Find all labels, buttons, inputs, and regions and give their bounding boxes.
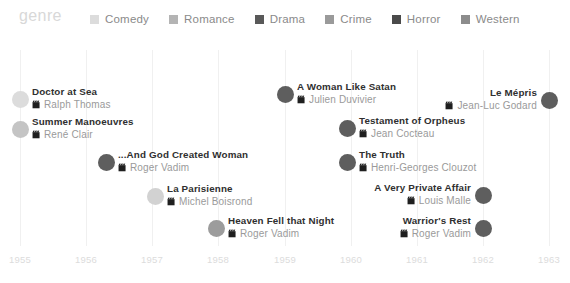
- film-title: A Woman Like Satan: [297, 82, 396, 93]
- data-point-label: La ParisienneMichel Boisrond: [167, 184, 252, 207]
- film-director-name: Roger Vadim: [240, 228, 299, 239]
- gridline-1958: [218, 50, 219, 246]
- data-point-dot[interactable]: [12, 121, 29, 138]
- data-point-label: Summer ManoeuvresRené Clair: [32, 117, 134, 140]
- film-title: Testament of Orpheus: [359, 116, 465, 127]
- x-axis-tick-label: 1962: [472, 254, 494, 265]
- x-axis-tick-label: 1963: [538, 254, 560, 265]
- data-point-dot[interactable]: [98, 154, 115, 171]
- square-swatch: [461, 15, 470, 24]
- clapperboard-icon: [407, 196, 416, 205]
- legend-item-comedy[interactable]: Comedy: [90, 13, 149, 25]
- film-director-name: Julien Duvivier: [309, 94, 376, 105]
- square-swatch: [255, 15, 264, 24]
- film-title: Summer Manoeuvres: [32, 117, 134, 128]
- x-axis-tick-label: 1957: [141, 254, 163, 265]
- data-point-dot[interactable]: [277, 86, 294, 103]
- legend-item-crime[interactable]: Crime: [325, 13, 372, 25]
- x-axis-tick-label: 1956: [75, 254, 97, 265]
- legend-item-western[interactable]: Western: [461, 13, 520, 25]
- data-point-dot[interactable]: [541, 92, 558, 109]
- film-director-name: René Clair: [44, 129, 93, 140]
- x-axis-tick-label: 1955: [9, 254, 31, 265]
- gridline-1960: [351, 50, 352, 246]
- film-director-row: Roger Vadim: [228, 229, 334, 240]
- film-director-name: Henri-Georges Clouzot: [371, 162, 476, 173]
- legend-item-romance[interactable]: Romance: [169, 13, 235, 25]
- film-title: La Parisienne: [167, 184, 252, 195]
- data-point-dot[interactable]: [208, 220, 225, 237]
- legend-item-label: Crime: [340, 13, 372, 25]
- film-director-row: Jean-Luc Godard: [445, 101, 537, 112]
- legend-item-horror[interactable]: Horror: [392, 13, 441, 25]
- legend-item-label: Comedy: [105, 13, 149, 25]
- film-title: Doctor at Sea: [32, 87, 111, 98]
- page-title: genre: [19, 7, 62, 25]
- gridline-1963: [549, 50, 550, 246]
- legend: ComedyRomanceDramaCrimeHorrorWestern: [90, 10, 540, 28]
- film-director-name: Jean Cocteau: [371, 128, 435, 139]
- data-point-label: A Woman Like SatanJulien Duvivier: [297, 82, 396, 105]
- data-point-dot[interactable]: [475, 220, 492, 237]
- x-axis-tick-label: 1958: [207, 254, 229, 265]
- film-title: A Very Private Affair: [374, 183, 471, 194]
- legend-item-label: Horror: [407, 13, 441, 25]
- square-swatch: [169, 15, 178, 24]
- clapperboard-icon: [445, 101, 454, 110]
- gridline-1957: [152, 50, 153, 246]
- film-title: Warrior's Rest: [400, 216, 471, 227]
- clapperboard-icon: [359, 129, 368, 138]
- film-director-row: Jean Cocteau: [359, 129, 465, 140]
- legend-item-label: Romance: [184, 13, 235, 25]
- film-director-row: Ralph Thomas: [32, 100, 111, 111]
- film-director-row: Louis Malle: [374, 196, 471, 207]
- gridline-1955: [20, 50, 21, 246]
- data-point-label: Le MéprisJean-Luc Godard: [445, 88, 537, 111]
- film-director-name: Roger Vadim: [412, 228, 471, 239]
- gridline-1962: [483, 50, 484, 246]
- legend-item-label: Drama: [270, 13, 306, 25]
- data-point-label: The TruthHenri-Georges Clouzot: [359, 150, 476, 173]
- legend-item-label: Western: [476, 13, 520, 25]
- legend-item-drama[interactable]: Drama: [255, 13, 306, 25]
- data-point-label: A Very Private AffairLouis Malle: [374, 183, 471, 206]
- square-swatch: [90, 15, 99, 24]
- data-point-label: Doctor at SeaRalph Thomas: [32, 87, 111, 110]
- x-axis-tick-label: 1961: [406, 254, 428, 265]
- square-swatch: [392, 15, 401, 24]
- film-director-name: Roger Vadim: [130, 162, 189, 173]
- film-director-row: Julien Duvivier: [297, 95, 396, 106]
- film-title: Le Mépris: [445, 88, 537, 99]
- data-point-label: ...And God Created WomanRoger Vadim: [118, 150, 248, 173]
- film-director-row: René Clair: [32, 130, 134, 141]
- film-director-name: Jean-Luc Godard: [457, 100, 537, 111]
- square-swatch: [325, 15, 334, 24]
- data-point-dot[interactable]: [339, 120, 356, 137]
- clapperboard-icon: [118, 163, 127, 172]
- film-director-name: Ralph Thomas: [44, 99, 111, 110]
- clapperboard-icon: [32, 130, 41, 139]
- data-point-label: Testament of OrpheusJean Cocteau: [359, 116, 465, 139]
- clapperboard-icon: [32, 100, 41, 109]
- film-director-name: Michel Boisrond: [179, 196, 252, 207]
- film-title: The Truth: [359, 150, 476, 161]
- x-axis-tick-label: 1959: [274, 254, 296, 265]
- data-point-dot[interactable]: [339, 154, 356, 171]
- film-director-row: Michel Boisrond: [167, 197, 252, 208]
- film-director-row: Henri-Georges Clouzot: [359, 163, 476, 174]
- gridline-1956: [86, 50, 87, 246]
- chart-header: genre ComedyRomanceDramaCrimeHorrorWeste…: [0, 0, 570, 38]
- data-point-dot[interactable]: [147, 188, 164, 205]
- data-point-label: Heaven Fell that NightRoger Vadim: [228, 216, 334, 239]
- film-director-row: Roger Vadim: [118, 163, 248, 174]
- clapperboard-icon: [228, 229, 237, 238]
- film-title: ...And God Created Woman: [118, 150, 248, 161]
- data-point-dot[interactable]: [12, 91, 29, 108]
- data-point-dot[interactable]: [475, 187, 492, 204]
- clapperboard-icon: [400, 229, 409, 238]
- clapperboard-icon: [167, 197, 176, 206]
- film-title: Heaven Fell that Night: [228, 216, 334, 227]
- clapperboard-icon: [297, 95, 306, 104]
- x-axis-tick-label: 1960: [340, 254, 362, 265]
- film-director-row: Roger Vadim: [400, 229, 471, 240]
